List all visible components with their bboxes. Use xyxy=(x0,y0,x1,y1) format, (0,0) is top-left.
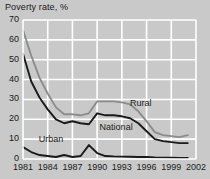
y-tick-label: 40 xyxy=(1,74,19,84)
x-tick-label: 1981 xyxy=(10,162,36,172)
y-tick-label: 30 xyxy=(1,93,19,103)
y-tick-label: 10 xyxy=(1,133,19,143)
poverty-rate-chart: Poverty rate, % 010203040506070 19811984… xyxy=(0,0,210,179)
y-tick-label: 60 xyxy=(1,34,19,44)
series-label-national: National xyxy=(100,122,133,132)
series-label-urban: Urban xyxy=(39,134,64,144)
chart-plot-area xyxy=(0,0,210,179)
x-tick-label: 1990 xyxy=(84,162,110,172)
y-tick-label: 20 xyxy=(1,113,19,123)
x-tick-label: 1996 xyxy=(134,162,160,172)
x-tick-label: 1984 xyxy=(35,162,61,172)
x-tick-label: 1987 xyxy=(59,162,85,172)
y-tick-label: 50 xyxy=(1,54,19,64)
x-tick-label: 1993 xyxy=(109,162,135,172)
x-tick-label: 1999 xyxy=(158,162,184,172)
x-tick-label: 2002 xyxy=(183,162,209,172)
y-tick-label: 70 xyxy=(1,14,19,24)
series-label-rural: Rural xyxy=(130,98,152,108)
